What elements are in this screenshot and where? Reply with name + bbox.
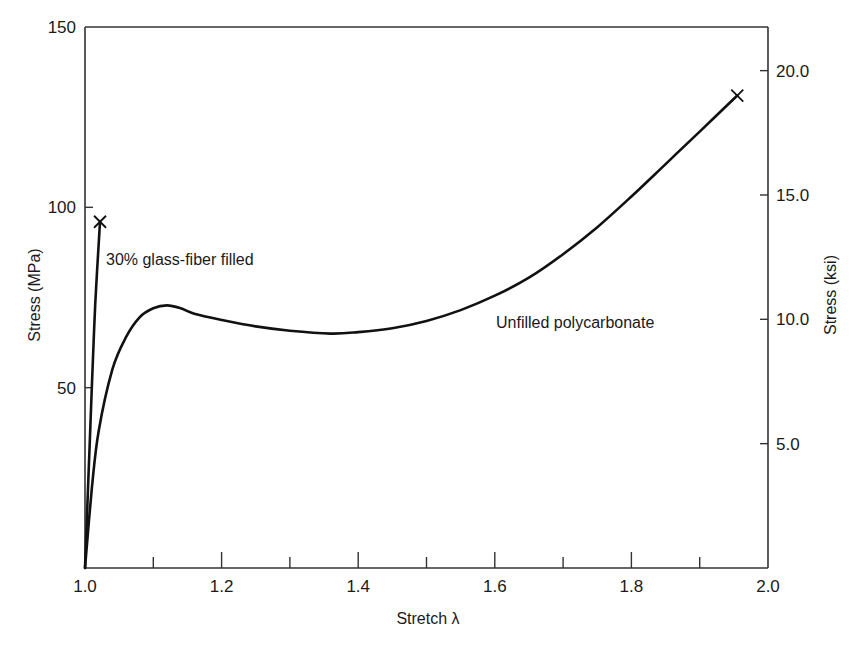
y2-axis-title: Stress (ksi) <box>822 255 839 335</box>
x-tick-label: 2.0 <box>756 577 780 596</box>
x-tick-label: 1.4 <box>346 577 370 596</box>
y2-tick-label: 10.0 <box>776 310 809 329</box>
y2-tick-label: 5.0 <box>776 435 800 454</box>
chart-canvas: 1.01.21.41.61.82.0 50100150 5.010.015.02… <box>0 0 863 651</box>
x-tick-label: 1.0 <box>73 577 97 596</box>
x-axis-title: Stretch λ <box>396 610 459 627</box>
glass-fiber-curve <box>85 222 100 568</box>
y2-tick-label: 15.0 <box>776 186 809 205</box>
y-axis-ticks: 50100150 <box>48 18 93 398</box>
y-tick-label: 100 <box>48 198 76 217</box>
annotation-unfilled: Unfilled polycarbonate <box>496 314 654 331</box>
annotation-glass-fiber: 30% glass-fiber filled <box>106 251 254 268</box>
x-tick-label: 1.6 <box>483 577 507 596</box>
x-tick-label: 1.2 <box>210 577 234 596</box>
plot-frame <box>85 27 768 568</box>
stress-stretch-chart: 1.01.21.41.61.82.0 50100150 5.010.015.02… <box>0 0 863 651</box>
failure-x-marker-icon <box>731 90 743 102</box>
y-tick-label: 50 <box>57 379 76 398</box>
unfilled-polycarbonate-curve <box>85 96 737 569</box>
x-axis-ticks: 1.01.21.41.61.82.0 <box>73 552 780 596</box>
y2-tick-label: 20.0 <box>776 62 809 81</box>
y-tick-label: 150 <box>48 18 76 37</box>
y-axis-title: Stress (MPa) <box>26 248 43 341</box>
x-tick-label: 1.8 <box>620 577 644 596</box>
